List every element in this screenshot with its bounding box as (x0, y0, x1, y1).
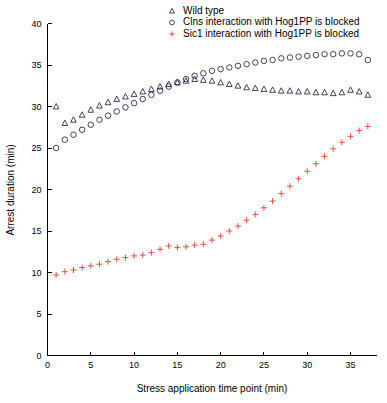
data-point (287, 88, 293, 93)
data-point (270, 198, 276, 204)
data-point (365, 57, 371, 63)
triangle-marker-icon (170, 8, 175, 13)
x-tick-label: 30 (302, 360, 312, 370)
data-point (218, 66, 224, 72)
data-point (244, 217, 250, 223)
data-point (200, 241, 206, 247)
data-point (79, 127, 85, 133)
data-point (261, 86, 267, 91)
scatter-plot: 051015202530354005101520253035 Wild type… (0, 0, 387, 403)
x-tick-label: 10 (129, 360, 139, 370)
data-point (313, 52, 319, 58)
data-point (287, 55, 293, 61)
x-axis-title: Stress application time point (min) (137, 383, 288, 394)
legend-entry-0: Wild type (170, 5, 225, 16)
data-point (365, 123, 371, 129)
data-point (322, 153, 328, 159)
data-point (79, 112, 85, 117)
data-point (261, 205, 267, 211)
data-point (97, 117, 103, 123)
data-point (157, 246, 163, 252)
data-point (313, 161, 319, 167)
x-tick-label: 15 (172, 360, 182, 370)
y-tick-label: 15 (31, 226, 41, 236)
data-point (123, 94, 129, 99)
data-point (296, 89, 302, 94)
axis-ticks (48, 24, 351, 356)
data-point (209, 237, 215, 243)
axis-tick-labels: 051015202530354005101520253035 (31, 19, 355, 370)
data-point (131, 100, 137, 106)
data-point (227, 65, 233, 71)
data-point (365, 92, 371, 97)
data-point (96, 261, 102, 267)
plus-marker-icon (169, 31, 174, 36)
data-point (296, 54, 302, 60)
data-point (131, 253, 137, 259)
data-point (71, 132, 77, 138)
data-point (304, 168, 310, 174)
data-point (235, 63, 241, 69)
y-tick-label: 5 (36, 309, 41, 319)
data-point (114, 109, 120, 115)
data-point (330, 146, 336, 152)
data-point (105, 113, 111, 119)
data-point (278, 88, 284, 93)
y-tick-label: 0 (36, 351, 41, 361)
data-point (278, 191, 284, 197)
data-point (97, 103, 103, 108)
data-point (209, 68, 215, 74)
data-point (131, 91, 137, 96)
y-tick-label: 35 (31, 60, 41, 70)
data-point (279, 56, 285, 62)
data-point (252, 85, 258, 90)
data-point (53, 104, 59, 109)
data-point (201, 71, 207, 77)
y-tick-label: 40 (31, 19, 41, 29)
data-point (149, 92, 155, 98)
data-point (304, 53, 310, 59)
data-point (313, 89, 319, 94)
chart-legend: Wild typeClns interaction with Hog1PP is… (169, 5, 359, 39)
data-point (348, 133, 354, 139)
data-point (140, 96, 146, 102)
data-point (270, 87, 276, 92)
data-point (88, 263, 94, 269)
data-point (218, 233, 224, 239)
x-tick-label: 0 (45, 360, 50, 370)
data-series-1 (53, 51, 370, 151)
legend-entry-2: Sic1 interaction with Hog1PP is blocked (169, 28, 359, 39)
chart-figure: 051015202530354005101520253035 Wild type… (0, 0, 387, 403)
y-axis-title: Arrest duration (min) (5, 144, 16, 235)
data-point (304, 89, 310, 94)
data-point (149, 86, 155, 91)
data-point (348, 87, 354, 92)
data-point (252, 211, 258, 217)
x-tick-label: 20 (216, 360, 226, 370)
data-point (322, 51, 328, 57)
data-point (53, 272, 59, 278)
data-point (62, 120, 68, 125)
y-tick-label: 20 (31, 185, 41, 195)
data-point (226, 228, 232, 234)
data-point (105, 99, 111, 104)
data-series-2 (53, 123, 371, 278)
data-point (140, 89, 146, 94)
data-point (166, 243, 172, 249)
data-point (114, 256, 120, 262)
legend-label: Sic1 interaction with Hog1PP is blocked (183, 28, 359, 39)
data-point (122, 255, 128, 261)
data-point (296, 176, 302, 182)
data-point (330, 51, 336, 57)
data-point (148, 250, 154, 256)
data-series-0 (53, 76, 370, 125)
x-tick-label: 5 (88, 360, 93, 370)
y-tick-label: 10 (31, 268, 41, 278)
data-point (79, 265, 85, 271)
data-point (218, 79, 224, 84)
data-point (174, 245, 180, 251)
data-point (261, 58, 267, 64)
data-point (322, 89, 328, 94)
data-point (244, 84, 250, 89)
data-point (356, 128, 362, 134)
